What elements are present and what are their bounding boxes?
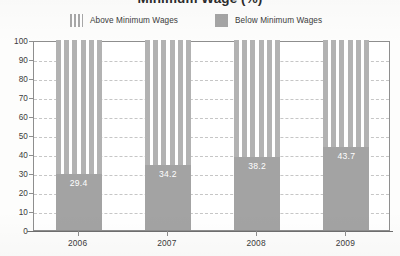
- chart-container: Minimum Wage (%) Above Minimum Wages Bel…: [0, 0, 400, 256]
- y-tick-label: 60: [0, 113, 28, 122]
- legend-item-above-minimum-wages: Above Minimum Wages: [70, 12, 178, 28]
- y-tick-label: 40: [0, 151, 28, 160]
- legend-label-below: Below Minimum Wages: [235, 16, 322, 25]
- legend-item-below-minimum-wages: Below Minimum Wages: [215, 12, 322, 28]
- bar-segment-above-minimum-wages[interactable]: [145, 40, 191, 165]
- x-tick-mark: [345, 231, 346, 236]
- x-tick-mark: [167, 231, 168, 236]
- solid-swatch-icon: [215, 14, 228, 27]
- striped-swatch-icon: [70, 14, 83, 27]
- bar-group[interactable]: 43.7: [323, 40, 369, 230]
- bar-group[interactable]: 29.4: [56, 40, 102, 230]
- bar-segment-above-minimum-wages[interactable]: [323, 40, 369, 147]
- y-tick-label: 20: [0, 189, 28, 198]
- y-tick-label: 90: [0, 56, 28, 65]
- y-tick-label: 70: [0, 94, 28, 103]
- x-tick-mark: [256, 231, 257, 236]
- y-tick-label: 80: [0, 75, 28, 84]
- bar-segment-below-minimum-wages[interactable]: 29.4: [56, 174, 102, 230]
- bar-value-label: 38.2: [234, 161, 280, 171]
- legend-label-above: Above Minimum Wages: [90, 16, 178, 25]
- bar-value-label: 34.2: [145, 169, 191, 179]
- chart-title: Minimum Wage (%): [0, 0, 400, 6]
- y-tick-label: 30: [0, 170, 28, 179]
- x-axis-line: [27, 231, 393, 232]
- plot-area: 29.434.238.243.7: [33, 41, 390, 231]
- y-tick-label: 50: [0, 132, 28, 141]
- x-tick-mark: [78, 231, 79, 236]
- bar-segment-below-minimum-wages[interactable]: 34.2: [145, 165, 191, 230]
- y-tick-label: 0: [0, 227, 28, 236]
- x-tick-label: 2008: [226, 238, 286, 248]
- chart-legend: Above Minimum Wages Below Minimum Wages: [70, 12, 370, 28]
- bar-value-label: 43.7: [323, 151, 369, 161]
- bar-segment-below-minimum-wages[interactable]: 38.2: [234, 157, 280, 230]
- bar-segment-above-minimum-wages[interactable]: [56, 40, 102, 174]
- bar-group[interactable]: 34.2: [145, 40, 191, 230]
- y-axis: 1009080706050403020100: [0, 41, 28, 231]
- y-tick-label: 100: [0, 37, 28, 46]
- y-tick-label: 10: [0, 208, 28, 217]
- bar-segment-below-minimum-wages[interactable]: 43.7: [323, 147, 369, 230]
- x-tick-label: 2009: [315, 238, 375, 248]
- bar-value-label: 29.4: [56, 178, 102, 188]
- bar-group[interactable]: 38.2: [234, 40, 280, 230]
- bar-segment-above-minimum-wages[interactable]: [234, 40, 280, 157]
- x-tick-label: 2007: [137, 238, 197, 248]
- x-tick-label: 2006: [48, 238, 108, 248]
